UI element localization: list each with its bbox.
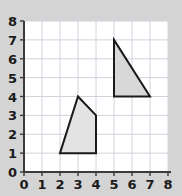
x-tick-label: 1 xyxy=(37,177,46,192)
x-tick-label: 3 xyxy=(73,177,82,192)
y-axis-tick-labels: 012345678 xyxy=(8,14,17,180)
x-tick-label: 2 xyxy=(55,177,64,192)
y-tick-label: 5 xyxy=(8,71,17,86)
y-tick-label: 6 xyxy=(8,52,17,67)
x-tick-label: 7 xyxy=(145,177,154,192)
coordinate-plane-svg: 012345678 012345678 xyxy=(0,0,182,196)
coordinate-grid-figure: 012345678 012345678 xyxy=(0,0,182,196)
x-tick-label: 6 xyxy=(127,177,136,192)
y-tick-label: 4 xyxy=(8,90,17,105)
y-tick-label: 8 xyxy=(8,14,17,29)
x-tick-label: 5 xyxy=(109,177,118,192)
x-axis-tick-labels: 012345678 xyxy=(19,177,172,192)
x-tick-label: 0 xyxy=(19,177,28,192)
x-tick-label: 4 xyxy=(91,177,100,192)
y-tick-label: 2 xyxy=(8,127,17,142)
y-tick-label: 3 xyxy=(8,108,17,123)
y-tick-label: 1 xyxy=(8,146,17,161)
x-tick-label: 8 xyxy=(163,177,172,192)
y-tick-label: 7 xyxy=(8,33,17,48)
y-tick-label: 0 xyxy=(8,165,17,180)
